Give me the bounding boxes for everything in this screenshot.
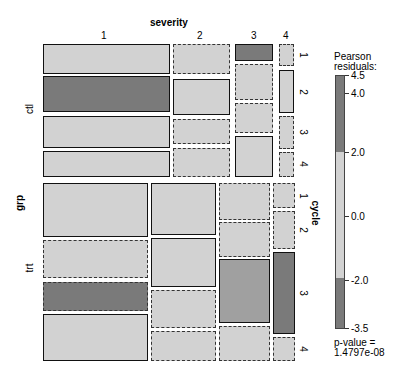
cycle-label-ctl-2: 2	[298, 89, 308, 95]
left-axis-title: grp	[15, 191, 25, 215]
cycle-label-ctl-1: 1	[298, 52, 308, 58]
cycle-label-trt-4: 4	[298, 346, 308, 352]
tile-ctl-sev4-cyc2	[279, 70, 294, 113]
legend-tick-2.0	[345, 152, 349, 153]
legend-tick-neg3.5	[345, 328, 349, 329]
tile-trt-sev4-cyc1	[273, 183, 295, 208]
severity-label-1: 1	[101, 31, 107, 41]
tile-trt-sev3-cyc3	[219, 259, 270, 323]
legend-seg-neutral	[336, 152, 344, 278]
tile-trt-sev1-cyc1	[43, 183, 148, 237]
tile-trt-sev2-cyc2	[151, 238, 216, 287]
tile-ctl-sev2-cyc1	[173, 44, 230, 74]
tile-ctl-sev3-cyc4	[235, 136, 273, 177]
tile-trt-sev4-cyc3	[273, 252, 295, 334]
tile-ctl-sev1-cyc3	[43, 116, 170, 148]
cycle-label-ctl-3: 3	[298, 129, 308, 135]
severity-label-2: 2	[197, 31, 203, 41]
grp-label-trt: trt	[25, 258, 35, 278]
tile-ctl-sev4-cyc1	[279, 44, 294, 66]
legend-tick-4.5	[345, 75, 349, 76]
severity-label-3: 3	[251, 31, 257, 41]
tile-trt-sev4-cyc2	[273, 211, 295, 249]
cycle-label-trt-3: 3	[298, 290, 308, 296]
legend-seg-high-pos	[336, 76, 344, 152]
legend-tick-neg2.0	[345, 280, 349, 281]
tile-ctl-sev4-cyc3	[279, 116, 294, 149]
legend-label-4.0: 4.0	[351, 89, 365, 99]
top-axis-title: severity	[150, 18, 188, 28]
tile-ctl-sev1-cyc4	[43, 151, 170, 177]
legend-tick-4.0	[345, 93, 349, 94]
tile-trt-sev1-cyc3	[43, 282, 148, 311]
legend-tick-0.0	[345, 216, 349, 217]
tile-trt-sev2-cyc4	[151, 331, 216, 361]
tile-trt-sev1-cyc4	[43, 314, 148, 361]
legend-color-bar	[335, 75, 345, 329]
tile-ctl-sev2-cyc2	[173, 79, 230, 115]
legend-label-2.0: 2.0	[351, 148, 365, 158]
tile-ctl-sev3-cyc3	[235, 103, 273, 133]
tile-trt-sev3-cyc1	[219, 183, 270, 220]
legend-pvalue: 1.4797e-08	[334, 348, 385, 358]
tile-ctl-sev4-cyc4	[279, 152, 294, 177]
grp-label-ctl: ctl	[25, 99, 35, 119]
tile-trt-sev2-cyc3	[151, 290, 216, 328]
tile-trt-sev2-cyc1	[151, 183, 216, 235]
tile-ctl-sev1-cyc2	[43, 76, 170, 112]
cycle-label-trt-1: 1	[298, 193, 308, 199]
legend-label-neg3.5: -3.5	[351, 324, 368, 334]
legend-seg-high-neg	[336, 278, 344, 328]
tile-trt-sev3-cyc4	[219, 326, 270, 361]
tile-trt-sev1-cyc2	[43, 240, 148, 278]
right-axis-title: cycle	[310, 198, 320, 228]
tile-ctl-sev3-cyc2	[235, 64, 273, 100]
tile-trt-sev4-cyc4	[273, 337, 295, 361]
legend-label-4.5: 4.5	[351, 71, 365, 81]
legend-label-neg2.0: -2.0	[351, 276, 368, 286]
tile-ctl-sev3-cyc1	[235, 44, 273, 61]
severity-label-4: 4	[283, 31, 289, 41]
cycle-label-ctl-4: 4	[298, 161, 308, 167]
tile-ctl-sev1-cyc1	[43, 44, 170, 74]
cycle-label-trt-2: 2	[298, 227, 308, 233]
tile-ctl-sev2-cyc3	[173, 119, 230, 144]
legend-label-0.0: 0.0	[351, 212, 365, 222]
tile-ctl-sev2-cyc4	[173, 148, 230, 177]
tile-trt-sev3-cyc2	[219, 222, 270, 257]
